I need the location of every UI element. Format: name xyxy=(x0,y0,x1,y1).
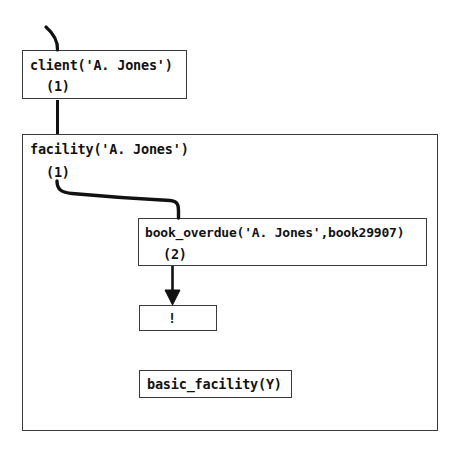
node-book-overdue-goal: book_overdue('A. Jones',book29907) xyxy=(145,225,404,240)
diagram-canvas: client('A. Jones') (1) facility('A. Jone… xyxy=(0,0,460,450)
node-book-overdue-index: (2) xyxy=(163,246,187,262)
node-client-index: (1) xyxy=(46,78,70,94)
node-basic-facility-goal: basic_facility(Y) xyxy=(147,376,282,392)
node-facility-goal: facility('A. Jones') xyxy=(30,141,189,157)
node-facility-index: (1) xyxy=(46,164,70,180)
node-cut-goal: ! xyxy=(168,310,176,326)
node-cut[interactable] xyxy=(139,305,217,331)
incoming-edge-stub xyxy=(46,27,58,50)
node-client-goal: client('A. Jones') xyxy=(30,57,173,73)
